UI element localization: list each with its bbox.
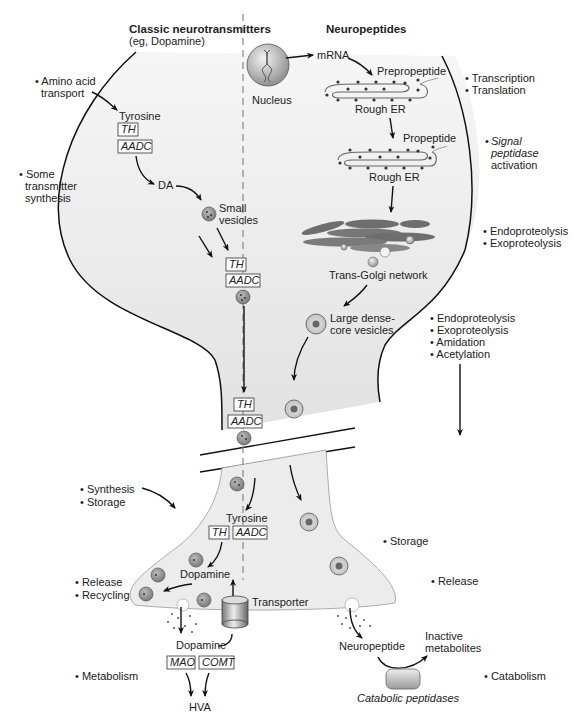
th-label: TH bbox=[121, 123, 136, 135]
annot-some-synthesis-3: synthesis bbox=[25, 192, 71, 204]
ldcv-1 bbox=[306, 314, 326, 334]
annot-acetylation: • Acetylation bbox=[430, 348, 490, 360]
small-vesicle-1 bbox=[202, 207, 216, 221]
axon-aadc-label: AADC bbox=[230, 415, 262, 427]
axon-th-label: TH bbox=[237, 398, 252, 410]
axon-vesicle-left bbox=[237, 431, 251, 445]
aadc-label: AADC bbox=[120, 140, 152, 152]
annot-some-synthesis-2: transmitter bbox=[25, 180, 77, 192]
inactive-metabolites-label-2: metabolites bbox=[425, 642, 482, 654]
tyrosine-label: Tyrosine bbox=[119, 110, 161, 122]
nucleus-icon bbox=[247, 44, 289, 86]
ldcv-label: Large dense- bbox=[330, 312, 395, 324]
terminal-th-label: TH bbox=[212, 526, 227, 538]
axon-ldcv bbox=[285, 400, 303, 418]
catabolic-peptidases-label: Catabolic peptidases bbox=[357, 692, 460, 704]
annot-catabolism: • Catabolism bbox=[484, 670, 546, 682]
transporter-icon bbox=[222, 596, 248, 628]
annot-transcription: • Transcription bbox=[465, 72, 535, 84]
comt-arrow bbox=[205, 673, 209, 696]
nucleus-label: Nucleus bbox=[252, 94, 292, 106]
annot-amidation: • Amidation bbox=[430, 336, 485, 348]
annot-release: • Release bbox=[75, 576, 122, 588]
small-vesicle-2 bbox=[236, 290, 250, 304]
small-vesicles-label-2: vesicles bbox=[219, 214, 259, 226]
annot-release-right: • Release bbox=[431, 575, 478, 587]
mrna-label: mRNA bbox=[317, 49, 350, 61]
soma-fill bbox=[58, 52, 479, 430]
comt-label: COMT bbox=[202, 656, 236, 668]
catabolism-arrow bbox=[378, 656, 427, 668]
terminal-ldcv-2 bbox=[330, 557, 348, 575]
extracellular-dopamine-label: Dopamine bbox=[176, 639, 226, 651]
annot-endoproteolysis-2: • Endoproteolysis bbox=[430, 312, 516, 324]
neuropeptide-label: Neuropeptide bbox=[339, 640, 405, 652]
annot-endoproteolysis-1: • Endoproteolysis bbox=[483, 225, 569, 237]
da-label: DA bbox=[158, 179, 174, 191]
neuropeptide-release-arrow bbox=[350, 608, 362, 638]
annot-synthesis: • Synthesis bbox=[80, 483, 135, 495]
propeptide-label: Propeptide bbox=[403, 132, 456, 144]
prepropeptide-label: Prepropeptide bbox=[377, 65, 446, 77]
annot-amino-acid: • Amino acid bbox=[35, 75, 96, 87]
annot-exoproteolysis-1: • Exoproteolysis bbox=[483, 237, 562, 249]
synthesis-arrow bbox=[142, 488, 175, 508]
catabolic-peptidase-icon bbox=[386, 669, 420, 689]
classic-subtitle: (eg, Dopamine) bbox=[129, 35, 205, 47]
terminal-ldcv-1 bbox=[300, 513, 318, 531]
annot-some-synthesis: • Some bbox=[19, 168, 55, 180]
annot-recycling: • Recycling bbox=[75, 589, 130, 601]
classic-title: Classic neurotransmitters bbox=[129, 23, 271, 35]
annot-translation: • Translation bbox=[465, 84, 526, 96]
trans-golgi-label: Trans-Golgi network bbox=[329, 269, 428, 281]
terminal-dopamine-label: Dopamine bbox=[180, 568, 230, 580]
mao-label: MAO bbox=[170, 656, 196, 668]
ldcv-label-2: core vesicles bbox=[330, 324, 394, 336]
terminal-aadc-label: AADC bbox=[235, 526, 267, 538]
small-vesicles-label: Small bbox=[219, 202, 247, 214]
hva-label: HVA bbox=[189, 701, 211, 713]
transporter-label: Transporter bbox=[252, 596, 309, 608]
annot-signal-peptidase: Signal bbox=[491, 135, 522, 147]
terminal-vesicle-top bbox=[230, 477, 244, 491]
annot-signal-bullet: • bbox=[485, 135, 489, 147]
annot-amino-acid-2: transport bbox=[41, 87, 84, 99]
mid-aadc-label: AADC bbox=[228, 274, 260, 286]
annot-signal-peptidase-2: peptidase bbox=[490, 147, 539, 159]
rough-er-1-label: Rough ER bbox=[355, 103, 406, 115]
neuropeptides-title: Neuropeptides bbox=[326, 23, 407, 35]
annot-exoproteolysis-2: • Exoproteolysis bbox=[430, 324, 509, 336]
neuron-diagram: Classic neurotransmitters (eg, Dopamine)… bbox=[0, 0, 580, 722]
rough-er-2-label: Rough ER bbox=[369, 171, 420, 183]
terminal-tyrosine-label: Tyrosine bbox=[226, 512, 268, 524]
annot-metabolism: • Metabolism bbox=[75, 670, 138, 682]
mid-th-label: TH bbox=[229, 258, 244, 270]
annot-storage-right: • Storage bbox=[383, 535, 428, 547]
mao-arrow bbox=[186, 673, 191, 696]
inactive-metabolites-label: Inactive bbox=[425, 630, 463, 642]
annot-storage: • Storage bbox=[80, 496, 125, 508]
annot-signal-peptidase-3: activation bbox=[491, 159, 537, 171]
